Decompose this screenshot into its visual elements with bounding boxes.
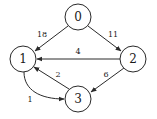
node-1: 1 xyxy=(10,46,36,72)
node-3: 3 xyxy=(65,86,91,112)
node-2: 2 xyxy=(120,46,146,72)
node-3-label: 3 xyxy=(74,92,82,106)
edge-label-0-1: 18 xyxy=(37,30,47,39)
graph-diagram: 18 11 4 2 6 1 0 1 2 3 xyxy=(0,0,157,119)
node-0: 0 xyxy=(65,4,91,30)
node-1-label: 1 xyxy=(19,52,27,66)
edge-label-2-3: 6 xyxy=(103,70,108,79)
edge-3-to-1 xyxy=(34,67,69,89)
edge-label-2-1: 4 xyxy=(75,47,80,56)
node-2-label: 2 xyxy=(129,52,137,66)
edge-label-3-1: 2 xyxy=(55,70,60,79)
edge-label-0-2: 11 xyxy=(108,30,118,39)
edge-label-1-3: 1 xyxy=(27,95,32,104)
node-0-label: 0 xyxy=(74,10,82,24)
